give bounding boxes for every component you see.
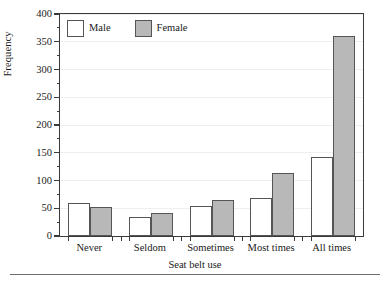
gridline [60,69,363,70]
y-axis-tick [54,41,60,42]
x-axis-label-sometimes: Sometimes [187,243,234,254]
legend-entry-female: Female [135,20,188,37]
gridline [60,41,363,42]
x-axis-tick [190,236,191,241]
bar-chart-figure: Frequency 050100150200250300350400 Male … [0,0,390,283]
x-axis-tick [250,236,251,241]
chart-legend: Male Female [67,17,203,39]
y-axis-tick-label: 250 [12,92,52,103]
x-axis-label-all-times: All times [312,243,351,254]
bar-male-sometimes [190,206,212,236]
y-axis-tick-label: 350 [12,37,52,48]
bar-female-most-times [272,173,294,236]
x-axis-tick [311,236,312,241]
bar-male-all-times [311,157,333,236]
y-axis-tick [54,180,60,181]
y-axis-tick [54,124,60,125]
gridline [60,97,363,98]
legend-label-male: Male [89,23,111,34]
bar-female-all-times [333,36,355,236]
x-axis-label-most-times: Most times [248,243,295,254]
y-axis-minor-tick [57,83,61,84]
bar-female-seldom [151,213,173,236]
y-axis-tick [54,97,60,98]
plot-inner [60,14,363,236]
gridline [60,152,363,153]
x-axis-tick [112,236,113,241]
x-axis-tick [173,236,174,241]
bar-female-sometimes [212,200,234,236]
gridline [60,125,363,126]
x-axis-label-seldom: Seldom [134,243,166,254]
y-axis-minor-tick [57,27,61,28]
y-axis-tick [54,152,60,153]
y-axis-tick-label: 50 [12,203,52,214]
y-axis-tick-label: 150 [12,148,52,159]
legend-swatch-female-icon [135,20,152,37]
y-axis-minor-tick [57,166,61,167]
x-axis-tick [68,236,69,241]
x-axis-tick [242,236,243,241]
x-axis-tick [121,236,122,241]
y-axis-tick-label: 200 [12,120,52,131]
bar-male-most-times [250,198,272,236]
y-axis-minor-tick [57,222,61,223]
y-axis-tick [54,13,60,14]
legend-swatch-male-icon [67,20,84,37]
y-axis-minor-tick [57,55,61,56]
x-axis-tick [355,236,356,241]
x-axis-tick [129,236,130,241]
x-axis-tick [302,236,303,241]
y-axis-minor-tick [57,138,61,139]
bar-male-never [68,203,90,236]
y-axis-minor-tick [57,111,61,112]
y-axis-tick [54,69,60,70]
x-axis-tick [294,236,295,241]
y-axis-tick-label: 100 [12,175,52,186]
x-axis-tick [234,236,235,241]
y-axis-tick-label: 0 [12,231,52,242]
gridline [60,14,363,15]
x-axis-title: Seat belt use [0,259,390,270]
y-axis-tick-label: 400 [12,9,52,20]
y-axis-tick [54,235,60,236]
x-axis-tick [181,236,182,241]
y-axis-tick-label: 300 [12,64,52,75]
y-axis-minor-tick [57,194,61,195]
bar-male-seldom [129,217,151,236]
legend-entry-male: Male [67,20,111,37]
bottom-divider [10,274,380,275]
x-axis-label-never: Never [76,243,102,254]
y-axis-tick [54,208,60,209]
plot-area: 050100150200250300350400 [59,13,364,237]
legend-label-female: Female [157,23,188,34]
bar-female-never [90,207,112,236]
